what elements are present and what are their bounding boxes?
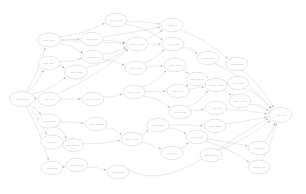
- graph-node[interactable]: join_tables: [107, 165, 129, 179]
- graph-edge: [169, 125, 202, 126]
- edge-weight-label: 1: [70, 96, 72, 98]
- edge-weight-label: 1: [246, 118, 248, 120]
- edge-arrowhead: [201, 125, 203, 127]
- graph-node[interactable]: scan_files: [41, 135, 63, 149]
- graph-node[interactable]: notify_hook: [229, 94, 251, 108]
- graph-node[interactable]: seal_block: [228, 76, 249, 89]
- node-label: validate_io: [166, 24, 178, 27]
- node-label: notify_hook: [234, 100, 247, 103]
- graph-node[interactable]: open_stream: [85, 117, 107, 131]
- node-label: queue_job: [172, 90, 184, 93]
- graph-node[interactable]: start_pipeline: [10, 92, 35, 107]
- graph-node[interactable]: map_schema: [63, 138, 84, 151]
- edge-weight-label: 1: [156, 97, 158, 99]
- node-label: fetch_source: [42, 120, 56, 123]
- node-label: reduce_set: [166, 152, 178, 155]
- graph-node[interactable]: compress_out: [200, 148, 222, 162]
- node-label: group_keys: [128, 91, 141, 94]
- edge-weight-label: 1: [70, 44, 72, 46]
- graph-node[interactable]: emit_event: [162, 37, 184, 51]
- graph-node[interactable]: sync_cache: [169, 105, 191, 119]
- edge-weight-label: 1: [244, 135, 246, 137]
- graph-node[interactable]: fetch_source: [38, 114, 61, 128]
- graph-canvas[interactable]: 1111111111111111111111111111111111111111…: [0, 0, 306, 194]
- graph-node[interactable]: group_keys: [123, 85, 145, 99]
- graph-node[interactable]: encode_frame: [205, 78, 227, 92]
- node-label: seal_block: [232, 82, 244, 85]
- edge-arrowhead: [161, 65, 163, 67]
- graph-node[interactable]: parse_args: [65, 65, 88, 79]
- edge-arrowhead: [245, 145, 247, 147]
- edge-weight-label: 1: [155, 89, 157, 91]
- graph-node[interactable]: list_assets: [41, 161, 63, 175]
- graph-node[interactable]: write_shard: [204, 119, 226, 133]
- graph-node[interactable]: merge_nodes: [126, 37, 148, 51]
- edge-weight-label: 1: [61, 63, 63, 65]
- graph-edge: [148, 44, 160, 45]
- node-label: filter_rows: [131, 67, 143, 70]
- graph-node[interactable]: report_stat: [248, 141, 270, 155]
- node-label: audit_log: [211, 107, 221, 110]
- graph-node[interactable]: resolve_deps: [82, 92, 104, 106]
- node-label: track_state: [191, 136, 203, 139]
- graph-node[interactable]: queue_job: [167, 84, 189, 98]
- node-label: resolve_deps: [86, 98, 101, 101]
- graph-node[interactable]: calc_metrics: [147, 118, 169, 132]
- graph-node[interactable]: init_env: [38, 92, 60, 106]
- node-label: emit_event: [167, 43, 179, 46]
- node-label: flush_buffer: [231, 63, 244, 66]
- graph-node[interactable]: build_index: [83, 50, 104, 63]
- edge-arrowhead: [79, 98, 81, 100]
- edge-arrowhead: [122, 64, 124, 66]
- edge-weight-label: 1: [96, 165, 98, 167]
- graph-node[interactable]: finish_all: [268, 108, 292, 123]
- dag-diagram[interactable]: 1111111111111111111111111111111111111111…: [0, 0, 306, 194]
- node-label: report_stat: [253, 147, 265, 150]
- graph-node[interactable]: read_input: [38, 56, 60, 70]
- edge-weight-label: 1: [197, 108, 199, 110]
- graph-node[interactable]: reduce_set: [161, 146, 183, 160]
- edge-arrowhead: [79, 58, 81, 60]
- graph-edge: [147, 66, 163, 67]
- graph-node[interactable]: apply_rules: [121, 132, 143, 146]
- edge-weight-label: 1: [131, 30, 133, 32]
- node-label: cleanup_tmp: [201, 57, 215, 60]
- graph-node[interactable]: flush_buffer: [226, 57, 248, 71]
- edge-weight-label: 1: [143, 26, 145, 28]
- graph-node[interactable]: archive_run: [248, 160, 270, 174]
- graph-node[interactable]: verify_hash: [81, 32, 103, 46]
- edge-weight-label: 1: [35, 106, 37, 108]
- graph-node[interactable]: route_msg: [164, 58, 186, 72]
- node-label: merge_nodes: [130, 43, 146, 46]
- graph-node[interactable]: audit_log: [205, 101, 227, 115]
- node-label: open_stream: [89, 123, 103, 126]
- graph-node[interactable]: decode_blob: [66, 158, 88, 172]
- graph-node[interactable]: prep_batch: [105, 13, 127, 27]
- edge-weight-label: 1: [227, 147, 229, 149]
- edge-arrowhead: [206, 91, 208, 93]
- edge-weight-label: 1: [227, 140, 229, 142]
- edge-weight-label: 1: [48, 86, 50, 88]
- graph-edge: [60, 122, 83, 123]
- edge-weight-label: 1: [60, 127, 62, 129]
- edge-arrowhead: [247, 160, 249, 162]
- edge-weight-label: 1: [71, 120, 73, 122]
- edge-weight-label: 1: [36, 114, 38, 116]
- edge-weight-label: 1: [63, 164, 65, 166]
- node-label: list_assets: [46, 167, 58, 170]
- graph-node[interactable]: validate_io: [161, 18, 183, 32]
- graph-node[interactable]: cleanup_tmp: [197, 51, 219, 65]
- node-label: start_pipeline: [15, 98, 30, 101]
- node-label: finish_all: [275, 114, 285, 117]
- graph-node[interactable]: hash_chunk: [186, 72, 208, 86]
- edge-arrowhead: [78, 38, 80, 40]
- graph-node[interactable]: filter_rows: [125, 61, 147, 75]
- edge-weight-label: 1: [258, 103, 260, 105]
- edge-weight-label: 1: [257, 83, 259, 85]
- graph-node[interactable]: load_config: [38, 33, 61, 47]
- graph-edge: [168, 128, 186, 134]
- edge-weight-label: 1: [189, 46, 191, 48]
- node-label: sync_cache: [174, 111, 187, 114]
- node-label: verify_hash: [86, 38, 99, 41]
- graph-node[interactable]: track_state: [186, 130, 208, 144]
